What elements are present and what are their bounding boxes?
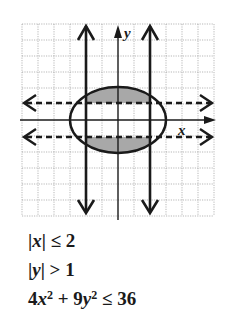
rhs-value: 36 <box>117 288 136 309</box>
operator: + <box>58 288 69 309</box>
coefficient: 4 <box>28 288 38 309</box>
inequality-abs-x: |x| ≤ 2 <box>28 226 136 255</box>
variable-x: x <box>32 230 42 251</box>
abs-bar: | <box>42 230 46 251</box>
exponent: 2 <box>91 288 97 302</box>
inequality-abs-y: |y| > 1 <box>28 255 136 284</box>
abs-bar: | <box>41 259 45 280</box>
y-axis-arrow-icon <box>114 25 122 38</box>
inequality-ellipse: 4x2 + 9y2 ≤ 36 <box>28 284 136 313</box>
inequality-list: |x| ≤ 2 |y| > 1 4x2 + 9y2 ≤ 36 <box>28 226 136 313</box>
y-axis-label: y <box>122 25 131 41</box>
axes <box>20 25 216 220</box>
variable-x: x <box>38 288 48 309</box>
rhs-value: 1 <box>65 259 75 280</box>
rhs-value: 2 <box>66 230 76 251</box>
operator: ≤ <box>102 288 112 309</box>
exponent: 2 <box>47 288 53 302</box>
system-of-inequalities-graph: y x <box>0 0 225 225</box>
operator: > <box>50 259 61 280</box>
operator: ≤ <box>51 230 61 251</box>
coefficient: 9 <box>73 288 83 309</box>
variable-y: y <box>83 288 91 309</box>
x-axis-label: x <box>177 122 186 138</box>
variable-y: y <box>32 259 40 280</box>
